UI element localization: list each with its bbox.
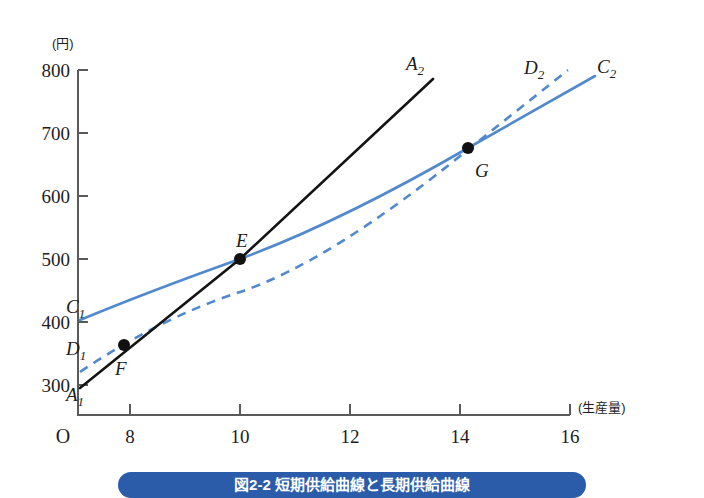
y-tick-label-800: 800	[42, 60, 71, 81]
point-label-F: F	[114, 358, 127, 379]
x-axis-unit-label: (生産量)	[578, 400, 626, 415]
x-tick-label-14: 14	[451, 426, 471, 447]
caption-banner-text: 図2-2 短期供給曲線と長期供給曲線	[118, 472, 586, 498]
curve-label-D1: D1	[65, 338, 86, 363]
series-D1D2-dashed	[80, 70, 568, 372]
curve-label-C2: C2	[597, 56, 617, 81]
series-A1A2-solid	[80, 79, 433, 388]
origin-label: O	[56, 425, 70, 447]
y-axis-unit-label: (円)	[52, 36, 74, 51]
point-E-marker	[234, 253, 246, 265]
y-tick-label-700: 700	[42, 123, 71, 144]
caption-banner: 図2-2 短期供給曲線と長期供給曲線	[118, 472, 586, 498]
series-C1C2-solid	[80, 76, 595, 320]
point-label-G: G	[475, 160, 489, 181]
x-tick-marks	[130, 404, 570, 415]
point-label-E: E	[235, 230, 248, 251]
x-tick-label-10: 10	[231, 426, 250, 447]
y-tick-label-600: 600	[42, 186, 71, 207]
x-tick-label-12: 12	[341, 426, 360, 447]
curve-label-D2: D2	[523, 57, 545, 82]
y-tick-label-500: 500	[42, 249, 71, 270]
x-tick-label-8: 8	[125, 426, 135, 447]
point-F-marker	[118, 339, 130, 351]
point-G-marker	[462, 142, 474, 154]
curve-label-A2: A2	[404, 53, 425, 78]
x-tick-label-16: 16	[561, 426, 580, 447]
axis-lines	[78, 70, 570, 415]
